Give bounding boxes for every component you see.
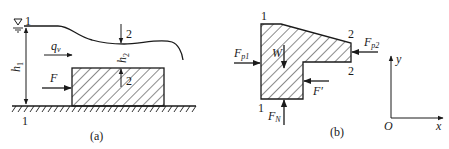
force-fp2-label: Fp2 [363,35,379,50]
control-volume-shape [261,24,351,99]
force-fprime-label: F′ [312,84,323,98]
force-f-label: F [49,71,58,85]
free-surface-symbol-icon [13,19,23,32]
x-axis-label: x [435,119,442,133]
figure-a: 1 h1 1 qv F 2 h2 2 (a) [9,14,196,143]
ground-surface [12,106,196,112]
section-label-1-top: 1 [25,14,31,28]
section-label-2-bottom-b: 2 [348,64,354,78]
obstacle-block [72,68,164,106]
figure-a-caption: (a) [90,129,103,143]
figure-b: 1 1 2 2 Fp1 Fp2 W F′ FN (b) [233,9,379,139]
section-label-2-bottom: 2 [126,74,132,88]
flow-rate-label: qv [51,39,61,54]
origin-label: O [384,119,393,133]
section-label-1-bottom-b: 1 [258,101,264,115]
section-label-1-bottom: 1 [22,114,28,128]
depth-h1-label: h1 [9,62,25,72]
weight-label: W [272,46,283,60]
section-label-2-top-b: 2 [348,27,354,41]
force-fn-label: FN [267,109,281,124]
coordinate-axes: y x O [384,52,443,133]
section-label-2-top: 2 [126,27,132,41]
section-label-1-top-b: 1 [261,9,267,23]
figure-b-caption: (b) [330,125,344,139]
depth-h2-label: h2 [115,53,131,63]
hydraulic-control-volume-figure: 1 h1 1 qv F 2 h2 2 (a) 1 1 2 2 [0,0,449,149]
force-fp1-label: Fp1 [233,46,249,61]
y-axis-label: y [395,52,402,66]
